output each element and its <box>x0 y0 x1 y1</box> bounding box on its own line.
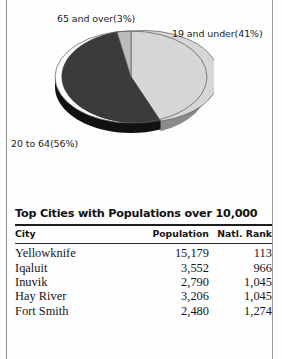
table-row: Fort Smith 2,480 1,274 <box>15 304 272 318</box>
pie-label-65-and-over: 65 and over(3%) <box>57 13 135 25</box>
column-header-population: Population <box>129 226 209 243</box>
cell-population: 15,179 <box>129 246 209 260</box>
cities-table-body: Yellowknife 15,179 113 Iqaluit 3,552 966… <box>15 246 272 317</box>
cell-population: 3,206 <box>129 289 209 303</box>
cell-city: Yellowknife <box>15 246 129 260</box>
cell-rank: 1,045 <box>209 289 272 303</box>
cell-city: Iqaluit <box>15 261 129 275</box>
table-row: Inuvik 2,790 1,045 <box>15 275 272 289</box>
cell-population: 2,480 <box>129 304 209 318</box>
column-header-city: City <box>15 226 129 243</box>
table-row: Hay River 3,206 1,045 <box>15 289 272 303</box>
table-row: Iqaluit 3,552 966 <box>15 261 272 275</box>
table-body: Yellowknife 15,179 113 Iqaluit 3,552 966… <box>15 246 272 317</box>
cities-table: City Population Natl. Rank <box>15 226 272 243</box>
cities-table-figure: Top Cities with Populations over 10,000 … <box>15 206 272 318</box>
cell-city: Fort Smith <box>15 304 129 318</box>
column-header-natl-rank: Natl. Rank <box>209 226 272 243</box>
cell-population: 3,552 <box>129 261 209 275</box>
table-title: Top Cities with Populations over 10,000 <box>15 206 272 224</box>
table-head: City Population Natl. Rank <box>15 226 272 243</box>
cell-rank: 966 <box>209 261 272 275</box>
table-row: Yellowknife 15,179 113 <box>15 246 272 260</box>
page-canvas: 65 and over(3%) 19 and under(41%) 20 to … <box>0 0 282 359</box>
pie-label-19-and-under: 19 and under(41%) <box>172 28 263 40</box>
cell-rank: 1,274 <box>209 304 272 318</box>
pie-chart-figure: 65 and over(3%) 19 and under(41%) 20 to … <box>0 0 282 180</box>
cell-rank: 1,045 <box>209 275 272 289</box>
pie-chart-graphic <box>48 28 214 146</box>
cell-city: Hay River <box>15 289 129 303</box>
cell-rank: 113 <box>209 246 272 260</box>
table-header-row: City Population Natl. Rank <box>15 226 272 243</box>
pie-label-20-to-64: 20 to 64(56%) <box>11 138 78 150</box>
cell-population: 2,790 <box>129 275 209 289</box>
cell-city: Inuvik <box>15 275 129 289</box>
